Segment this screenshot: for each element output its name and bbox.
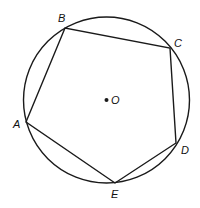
center-label-o: O: [111, 94, 120, 106]
inscribed-pentagon-diagram: O A B C D E: [0, 0, 200, 208]
center-point-o: [105, 98, 109, 102]
vertex-label-b: B: [58, 12, 65, 24]
vertex-label-a: A: [12, 118, 20, 130]
vertex-label-c: C: [174, 37, 182, 49]
vertex-label-d: D: [181, 144, 189, 156]
vertex-label-e: E: [111, 188, 119, 200]
